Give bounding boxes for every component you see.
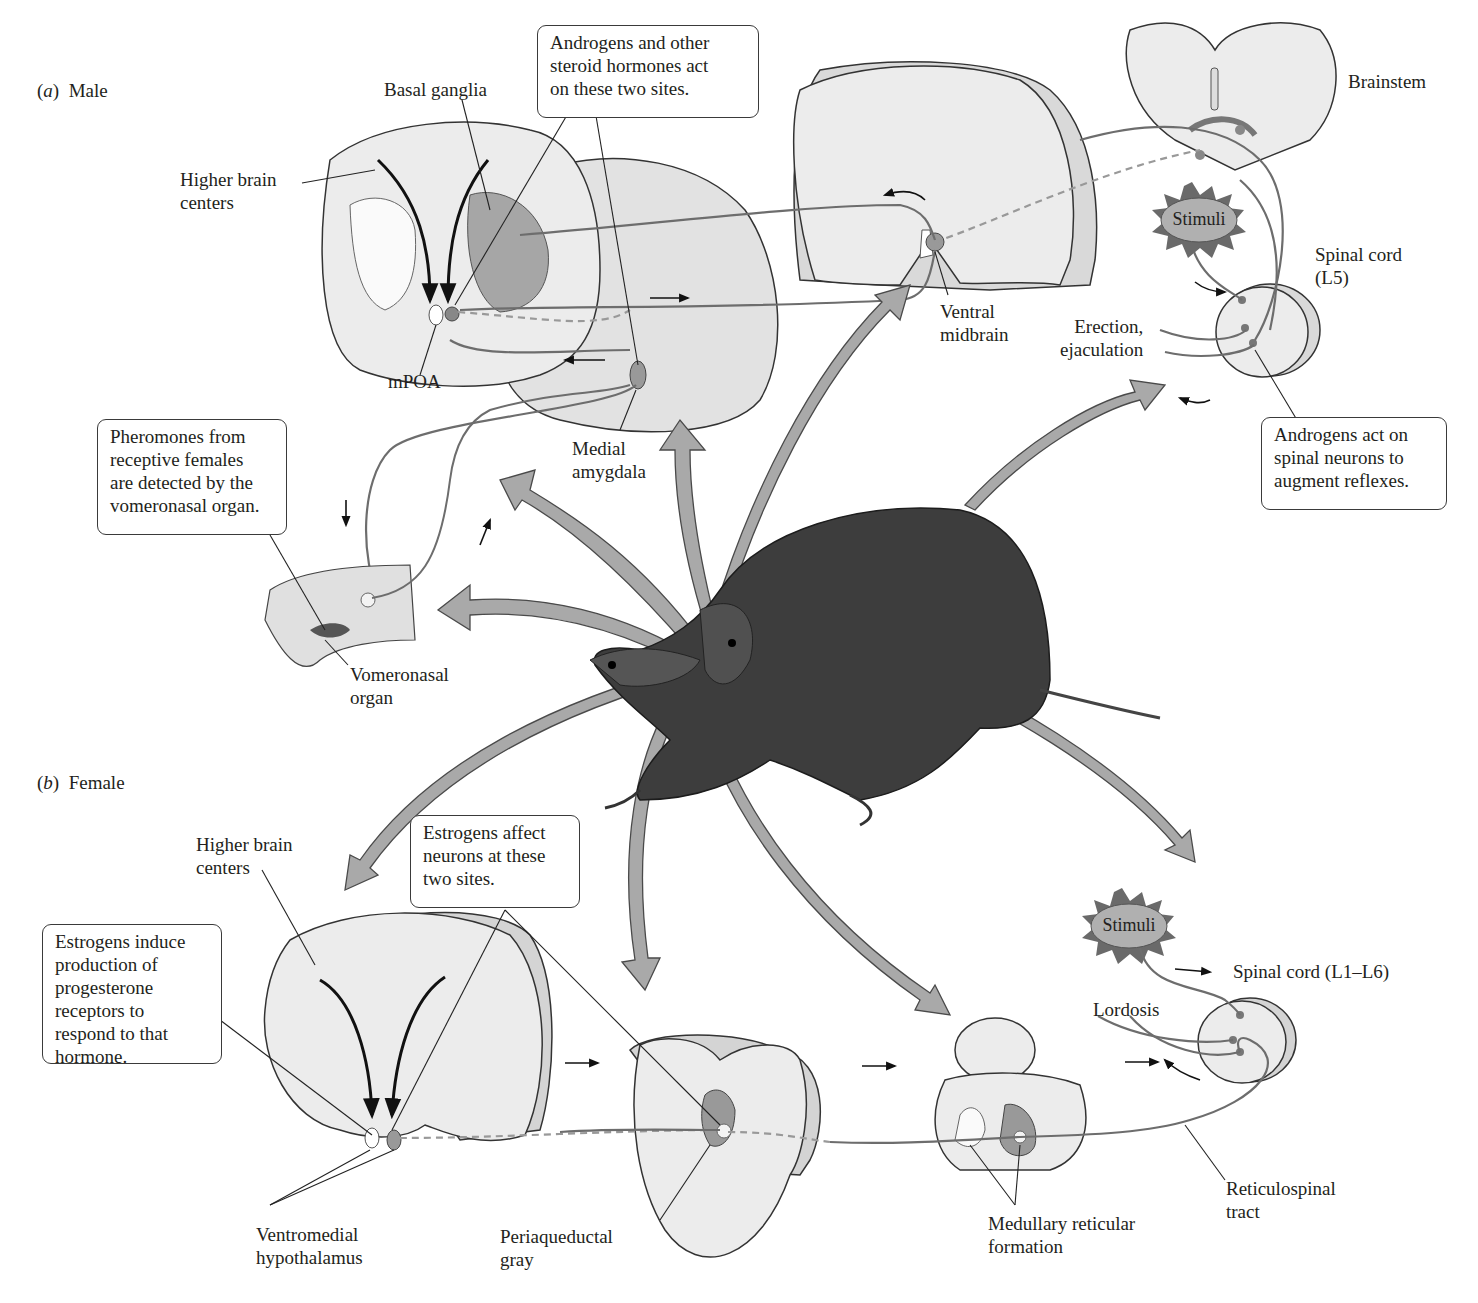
- callout-androgens-sites: Androgens and other steroid hormones act…: [537, 25, 759, 118]
- mating-rats-illustration: [590, 508, 1160, 825]
- panel-a-letter: a: [43, 80, 53, 101]
- male-spinal-cord-section: [1216, 284, 1320, 377]
- label-brainstem: Brainstem: [1348, 70, 1426, 93]
- stimuli-label-male: Stimuli: [1161, 209, 1237, 230]
- panel-a-label: Male: [69, 80, 108, 101]
- label-lordosis: Lordosis: [1093, 998, 1160, 1021]
- panel-b-title: (b) Female: [37, 772, 125, 794]
- callout-estrogens-induce: Estrogens induce production of progester…: [42, 924, 222, 1064]
- label-periaqueductal-gray: Periaqueductal gray: [500, 1225, 613, 1271]
- stimuli-label-female: Stimuli: [1091, 915, 1167, 936]
- label-spinal-cord-l5: Spinal cord (L5): [1315, 243, 1402, 289]
- label-mpoa: mPOA: [388, 370, 441, 393]
- label-reticulospinal-tract: Reticulospinal tract: [1226, 1177, 1336, 1223]
- panel-a-title: (a) Male: [37, 80, 108, 102]
- label-higher-brain-centers-male: Higher brain centers: [180, 168, 277, 214]
- label-higher-brain-centers-female: Higher brain centers: [196, 833, 293, 879]
- male-brainstem-section: [1126, 23, 1336, 170]
- label-basal-ganglia: Basal ganglia: [384, 78, 487, 101]
- female-midbrain-section: [630, 1035, 820, 1257]
- female-medulla-section: [935, 1018, 1086, 1170]
- male-midbrain-section: [794, 62, 1097, 290]
- label-medial-amygdala: Medial amygdala: [572, 437, 646, 483]
- female-spinal-cord-section: [1198, 998, 1296, 1083]
- label-vomeronasal-organ: Vomeronasal organ: [350, 663, 449, 709]
- label-erection-ejaculation: Erection, ejaculation: [1060, 315, 1143, 361]
- female-forebrain-section: [264, 913, 551, 1151]
- panel-b-label: Female: [69, 772, 125, 793]
- callout-estrogens-sites: Estrogens affect neurons at these two si…: [410, 815, 580, 908]
- label-medullary-reticular-formation: Medullary reticular formation: [988, 1212, 1135, 1258]
- label-spinal-cord-l1-l6: Spinal cord (L1–L6): [1233, 960, 1389, 983]
- callout-androgens-spinal: Androgens act on spinal neurons to augme…: [1261, 417, 1447, 510]
- callout-pheromones: Pheromones from receptive females are de…: [97, 419, 287, 535]
- label-ventromedial-hypothalamus: Ventromedial hypothalamus: [256, 1223, 363, 1269]
- panel-b-letter: b: [43, 772, 53, 793]
- label-ventral-midbrain: Ventral midbrain: [940, 300, 1009, 346]
